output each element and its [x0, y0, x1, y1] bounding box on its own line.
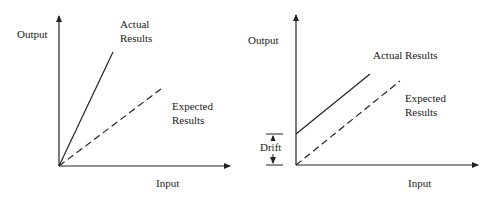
left-actual-label-1: Actual — [120, 18, 149, 31]
right-actual-line — [296, 74, 370, 134]
left-expected-label-2: Results — [172, 114, 204, 127]
right-input-label: Input — [408, 177, 431, 190]
left-input-label: Input — [156, 177, 179, 190]
left-actual-line — [59, 52, 113, 166]
drift-label: Drift — [259, 141, 282, 154]
right-expected-label-2: Results — [405, 106, 437, 119]
right-chart — [266, 15, 478, 165]
right-expected-label-1: Expected — [405, 92, 446, 105]
left-actual-label-2: Results — [120, 32, 152, 45]
right-actual-label: Actual Results — [373, 49, 437, 62]
left-output-label: Output — [17, 28, 48, 41]
right-output-label: Output — [248, 34, 279, 47]
left-expected-label-1: Expected — [172, 100, 213, 113]
left-expected-line — [59, 89, 161, 166]
right-expected-line — [296, 81, 400, 165]
